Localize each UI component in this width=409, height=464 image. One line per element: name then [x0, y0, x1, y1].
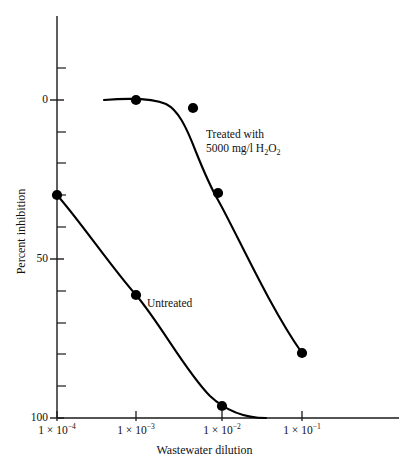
x-tick-base: 1 × 10 [283, 424, 313, 436]
data-point [52, 190, 62, 200]
x-tick-exponent: −3 [147, 422, 155, 431]
x-axis-ticks [57, 411, 302, 421]
chart-plot-area [0, 0, 409, 464]
x-tick-exponent: −2 [233, 422, 241, 431]
x-axis-tick-label-1e-3: 1 × 10−3 [101, 424, 171, 436]
y-axis-tick-label-100: 100 [8, 411, 48, 423]
x-tick-base: 1 × 10 [38, 424, 68, 436]
data-point [213, 188, 223, 198]
x-axis-tick-label-1e-1: 1 × 10−1 [267, 424, 337, 436]
data-point [217, 401, 227, 411]
x-tick-exponent: −1 [313, 422, 321, 431]
y-axis-minor-ticks [57, 68, 66, 386]
y-axis-tick-label-0: 0 [14, 93, 48, 105]
chart-figure: 0 50 100 1 × 10−4 1 × 10−3 1 × 10−2 1 × … [0, 0, 409, 464]
annotation-formula-sub-b: 2 [276, 148, 280, 157]
x-tick-base: 1 × 10 [117, 424, 147, 436]
x-axis-tick-label-1e-2: 1 × 10−2 [187, 424, 257, 436]
data-point [131, 290, 141, 300]
data-point [131, 95, 141, 105]
annotation-formula-prefix: 5000 mg/l H [206, 142, 264, 154]
data-point [188, 103, 198, 113]
series-annotation-untreated: Untreated [147, 296, 192, 310]
annotation-treated-line-2: 5000 mg/l H2O2 [206, 141, 280, 155]
series-annotation-treated: Treated with 5000 mg/l H2O2 [206, 127, 280, 155]
y-axis-title: Percent inhibition [14, 172, 29, 292]
x-tick-exponent: −4 [68, 422, 76, 431]
x-tick-base: 1 × 10 [203, 424, 233, 436]
x-axis-title: Wastewater dilution [0, 443, 409, 458]
data-point [297, 348, 307, 358]
x-axis-tick-label-1e-4: 1 × 10−4 [22, 424, 92, 436]
annotation-treated-line-1: Treated with [206, 127, 280, 141]
